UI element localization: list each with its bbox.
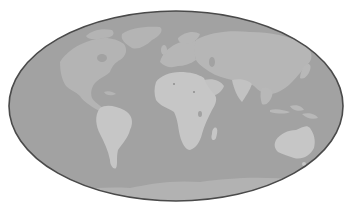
sahara-marker <box>173 83 175 85</box>
world-map-svg <box>0 0 351 209</box>
world-map <box>0 0 351 209</box>
lake-victoria <box>198 111 202 117</box>
british-isles <box>161 45 167 55</box>
new-zealand <box>325 153 329 160</box>
sahara-marker <box>193 91 195 93</box>
caspian-sea <box>209 57 215 67</box>
hudson-bay <box>97 54 107 62</box>
antarctica <box>0 178 350 209</box>
